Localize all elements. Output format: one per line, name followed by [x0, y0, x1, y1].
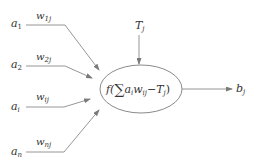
input-a2-connection	[26, 66, 92, 78]
input-an: an wnj	[11, 110, 99, 159]
input-ai: ai wij	[11, 91, 90, 114]
input-a1: a1 w1j	[11, 10, 99, 70]
output-label: bj	[236, 82, 246, 96]
threshold: Tj	[135, 19, 145, 64]
threshold-label: Tj	[135, 19, 145, 33]
weight-w2j-label: w2j	[36, 51, 52, 64]
input-a2-label: a2	[11, 58, 22, 72]
weight-wnj-label: wnj	[36, 136, 52, 149]
neuron-node: f(∑aiwij−Tj)	[100, 65, 182, 113]
activation-formula: f(∑aiwij−Tj)	[105, 81, 170, 97]
neuron-diagram: a1 w1j a2 w2j ai wij an wnj Tj f(∑aiwij−…	[0, 0, 253, 168]
input-a1-connection	[26, 25, 99, 70]
output: bj	[182, 82, 246, 96]
input-a1-label: a1	[11, 17, 22, 31]
input-an-label: an	[11, 145, 23, 159]
input-ai-label: ai	[11, 100, 20, 114]
weight-w1j-label: w1j	[36, 10, 52, 23]
weight-wij-label: wij	[36, 91, 50, 104]
input-a2: a2 w2j	[11, 51, 92, 78]
